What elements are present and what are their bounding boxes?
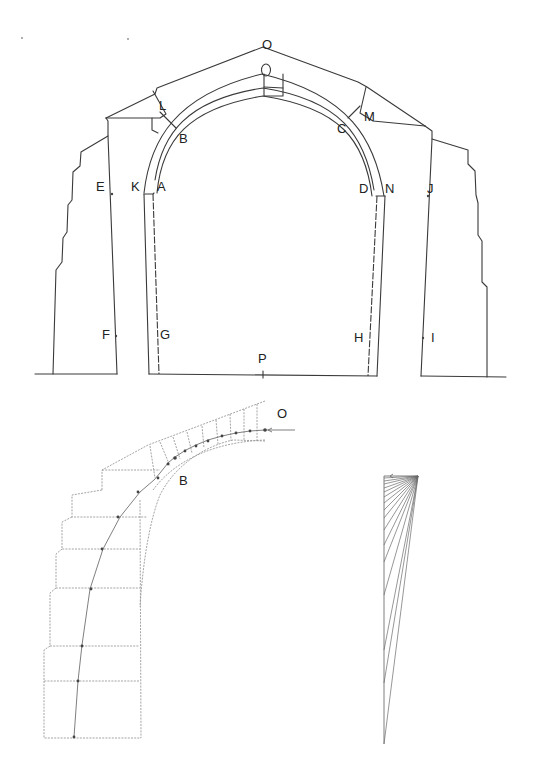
- ring-intrados: [140, 440, 265, 607]
- label-j: J: [427, 181, 434, 196]
- voussoir-divisions: [150, 404, 257, 478]
- elevation-labels: O L B M C E K A D N J F G H I P: [96, 37, 435, 366]
- label-o-lower: O: [277, 406, 287, 421]
- backing-steps-6: [44, 646, 140, 681]
- label-b: B: [179, 131, 188, 146]
- left-buttress: [53, 118, 108, 374]
- left-shoulder-step: [152, 118, 158, 133]
- force-polygon: [384, 474, 418, 744]
- arch-intrados: [157, 96, 372, 196]
- label-p: P: [258, 351, 267, 366]
- right-jamb-inner: [368, 196, 377, 376]
- arch-middle-ring: [155, 88, 374, 190]
- backing-steps-3: [62, 517, 140, 549]
- joint-c: [348, 106, 360, 118]
- label-a: A: [157, 179, 166, 194]
- thrust-line-diagram: O B: [44, 401, 295, 738]
- left-springing: [144, 193, 154, 194]
- label-d: D: [359, 181, 368, 196]
- keystone-joint: [264, 87, 283, 88]
- backing-steps-5: [50, 588, 139, 646]
- label-i: I: [431, 330, 435, 345]
- label-f: F: [102, 327, 110, 342]
- label-b-lower: B: [179, 473, 188, 488]
- point-i: [422, 337, 424, 339]
- label-c: C: [337, 121, 346, 136]
- backing-steps-7: [44, 681, 141, 738]
- speck: [127, 38, 129, 40]
- right-ground: [421, 376, 506, 377]
- point-f: [115, 335, 117, 337]
- backing-steps-4: [56, 549, 140, 588]
- arch-elevation: [21, 37, 506, 378]
- arch-drawing: O L B M C E K A D N J F G H I P: [0, 0, 536, 767]
- thrust-points: [73, 428, 267, 738]
- left-jamb-outer: [144, 194, 149, 374]
- point-e: [111, 193, 113, 195]
- backing-steps-2: [72, 490, 147, 517]
- gable-outline: [106, 47, 425, 126]
- label-o: O: [262, 37, 272, 52]
- pier-face: [140, 500, 141, 738]
- label-l: L: [159, 98, 166, 113]
- label-k: K: [131, 179, 140, 194]
- right-jamb-outer: [377, 196, 385, 376]
- left-jamb-inner: [153, 194, 159, 374]
- force-rays: [384, 476, 418, 744]
- label-e: E: [96, 179, 105, 194]
- label-h: H: [354, 330, 363, 345]
- label-g: G: [160, 327, 170, 342]
- ring-extrados: [153, 440, 265, 490]
- speck: [21, 37, 23, 39]
- label-n: N: [385, 181, 394, 196]
- label-m: M: [364, 109, 375, 124]
- keystone-mark: [262, 64, 271, 76]
